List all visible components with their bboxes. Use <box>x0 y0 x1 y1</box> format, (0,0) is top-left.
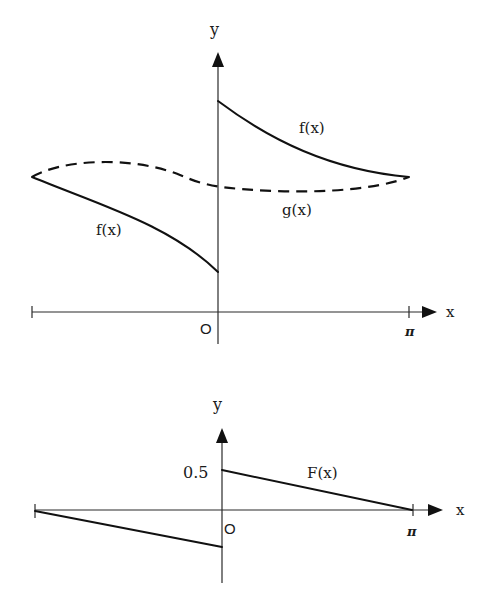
top-x-axis-label: x <box>446 303 455 321</box>
top-plot: y x O π f(x) g(x) f(x) <box>32 20 455 344</box>
bottom-pi-label: π <box>406 524 417 539</box>
top-f-left-label: f(x) <box>96 221 122 239</box>
bottom-y-tick-label: 0.5 <box>183 463 208 482</box>
top-pi-label: π <box>404 324 415 339</box>
bottom-origin-label: O <box>224 520 236 537</box>
bottom-F-left-line <box>35 511 222 547</box>
top-g-label: g(x) <box>282 201 312 219</box>
top-origin-label: O <box>200 320 212 337</box>
bottom-x-axis <box>35 504 443 518</box>
top-y-axis <box>212 52 224 344</box>
bottom-F-label: F(x) <box>307 464 338 482</box>
bottom-y-axis-label: y <box>212 395 222 414</box>
top-f-right-label: f(x) <box>299 119 325 137</box>
bottom-x-axis-arrow-icon <box>428 504 443 516</box>
bottom-x-axis-label: x <box>456 501 465 519</box>
diagram-canvas: y x O π f(x) g(x) f(x) y x O π 0.5 F(x) <box>0 0 482 611</box>
bottom-y-axis-arrow-icon <box>216 428 228 443</box>
bottom-y-axis <box>216 428 228 583</box>
bottom-plot: y x O π 0.5 F(x) <box>35 395 465 583</box>
top-x-axis-arrow-icon <box>422 306 437 318</box>
top-f-left-curve <box>32 177 218 272</box>
top-y-axis-arrow-icon <box>212 52 224 67</box>
top-f-right-curve <box>218 101 409 177</box>
top-y-axis-label: y <box>209 20 219 39</box>
top-g-curve <box>32 162 409 191</box>
top-x-axis <box>32 306 437 318</box>
